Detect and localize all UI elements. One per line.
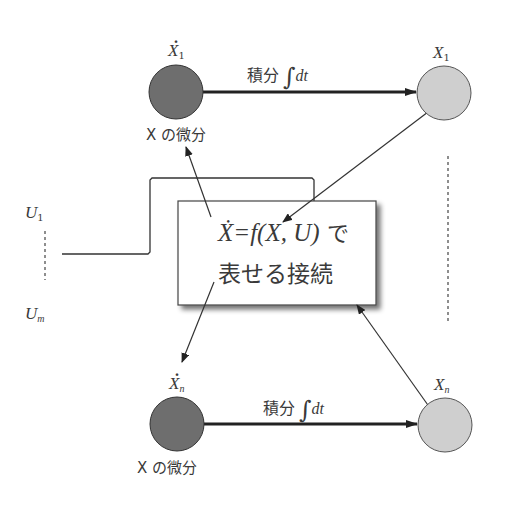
xn-dot-label: Xn [169, 373, 184, 394]
xn-label: Xn [434, 374, 449, 395]
connection-description: 表せる接続 [218, 255, 333, 289]
connection-box-text: Ẋ=f(X, U) で 表せる接続 [178, 201, 376, 305]
x1-dot-node [149, 65, 203, 119]
x1-derivative-caption: X の微分 [146, 123, 206, 144]
xn-derivative-caption: X の微分 [137, 456, 197, 477]
u1-label: U1 [25, 202, 44, 223]
x1-dot-label: X1 [168, 40, 185, 61]
bottom-integral-label: 積分∫dt [263, 395, 324, 424]
xn-dot-node [150, 397, 204, 451]
xn-node [418, 398, 472, 452]
x1-node [417, 66, 471, 120]
state-equation: Ẋ=f(X, U) で [218, 215, 349, 247]
x1-label: X1 [433, 42, 450, 63]
xn-to-box-arrow [357, 305, 430, 408]
um-label: Um [25, 303, 45, 324]
top-integral-label: 積分∫dt [247, 62, 308, 91]
